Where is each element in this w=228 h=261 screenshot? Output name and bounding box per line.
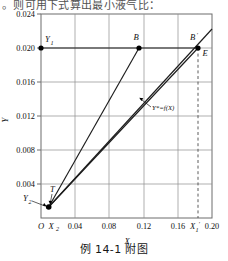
label-y1: Y 1 <box>45 34 54 46</box>
label-y1-sub: 1 <box>51 39 54 46</box>
x-tick-x2: X 2 <box>47 221 59 232</box>
data-points <box>38 45 200 209</box>
x-tick-012: 0.12 <box>137 222 152 231</box>
x-tick-x1prime: X 1 ′ <box>189 220 201 233</box>
y-tick-0020: 0.020 <box>16 44 35 53</box>
y-tick-0004: 0.004 <box>16 180 36 189</box>
x-tick-origin: O <box>38 221 44 231</box>
label-bprime-base: B <box>190 32 196 42</box>
y-axis-title-text: Y <box>0 116 10 122</box>
label-t-text: T <box>50 184 56 194</box>
y-axis-ticks <box>37 14 41 184</box>
figure-canvas: 0.024 0.020 0.016 0.012 0.008 0.004 Y O … <box>0 0 228 261</box>
point-labels: Y 1 B B ′ E T Y 2 <box>23 31 208 207</box>
y-tick-0024: 0.024 <box>16 10 36 19</box>
y-axis-title: Y <box>0 116 10 122</box>
curve-annotation-text: Y*=f(X) <box>152 104 175 112</box>
y-tick-0012: 0.012 <box>16 112 35 121</box>
x-tick-020: 0.20 <box>205 222 220 231</box>
point-b <box>136 45 141 50</box>
line-t-to-b <box>49 48 139 207</box>
label-b: B <box>133 32 139 42</box>
y-tick-0008: 0.008 <box>16 146 35 155</box>
x-tick-x2-sub: 2 <box>56 225 59 232</box>
label-bprime-prime: ′ <box>197 31 199 38</box>
x-tick-008: 0.08 <box>102 222 117 231</box>
line-equilibrium-curve <box>49 29 212 207</box>
figure-caption: 例 14-1 附图 <box>0 240 228 256</box>
x-tick-x1prime-prime: ′ <box>199 220 201 227</box>
x-tick-016: 0.16 <box>171 222 186 231</box>
y-tick-labels: 0.024 0.020 0.016 0.012 0.008 0.004 <box>16 10 36 189</box>
point-t <box>46 204 52 210</box>
label-y2-sub: 2 <box>29 198 32 205</box>
label-y2: Y 2 <box>23 193 47 207</box>
data-lines <box>41 29 212 207</box>
point-y1 <box>38 45 43 50</box>
point-bprime <box>195 45 200 50</box>
x-tick-x2-base: X <box>47 221 54 231</box>
y-tick-0016: 0.016 <box>16 78 35 87</box>
label-e: E <box>201 48 208 58</box>
x-tick-004: 0.04 <box>68 222 83 231</box>
x-tick-labels: O X 2 0.04 0.08 0.12 0.16 X 1 ′ 0.20 <box>38 220 219 233</box>
label-y2-arrowhead <box>43 203 47 207</box>
label-bprime: B ′ <box>190 31 199 42</box>
